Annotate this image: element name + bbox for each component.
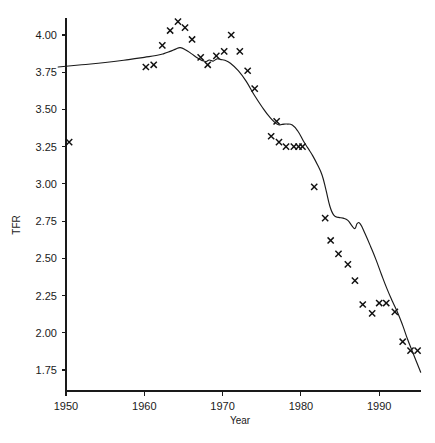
data-point-marker <box>360 301 366 307</box>
data-point-marker <box>189 36 195 42</box>
x-tick-label: 1990 <box>367 400 391 412</box>
trend-line <box>58 48 421 373</box>
data-point-marker <box>376 300 382 306</box>
x-axis-title: Year <box>230 415 251 426</box>
data-point-marker <box>213 53 219 59</box>
data-point-marker <box>205 62 211 68</box>
y-tick-label: 3.50 <box>36 103 57 115</box>
data-point-marker <box>322 215 328 221</box>
data-point-marker <box>414 348 420 354</box>
y-tick-label: 3.75 <box>36 66 57 78</box>
data-point-marker <box>245 68 251 74</box>
y-tick-label: 1.75 <box>36 364 57 376</box>
x-tick-label: 1950 <box>54 400 78 412</box>
data-point-marker <box>182 24 188 30</box>
data-point-marker <box>311 184 317 190</box>
data-point-marker <box>167 27 173 33</box>
data-point-marker <box>345 261 351 267</box>
data-point-marker <box>151 62 157 68</box>
y-tick-label: 3.25 <box>36 141 57 153</box>
chart-series <box>58 19 421 373</box>
data-point-marker <box>175 19 181 25</box>
x-axis: 19501960197019801990 <box>54 391 421 412</box>
data-point-marker <box>159 42 165 48</box>
data-point-marker <box>328 237 334 243</box>
data-point-marker <box>237 48 243 54</box>
chart-canvas: 1.752.002.252.502.753.003.253.503.754.00… <box>0 0 435 443</box>
y-tick-label: 2.75 <box>36 215 57 227</box>
data-point-marker <box>299 144 305 150</box>
y-tick-label: 3.00 <box>36 178 57 190</box>
data-point-marker <box>276 139 282 145</box>
tfr-scatter-chart: 1.752.002.252.502.753.003.253.503.754.00… <box>0 0 435 443</box>
y-tick-label: 2.50 <box>36 252 57 264</box>
data-point-marker <box>283 144 289 150</box>
data-point-marker <box>66 139 72 145</box>
data-point-marker <box>221 48 227 54</box>
data-point-marker <box>252 86 258 92</box>
data-point-marker <box>400 339 406 345</box>
x-tick-label: 1970 <box>210 400 234 412</box>
y-tick-label: 2.00 <box>36 327 57 339</box>
data-point-marker <box>228 32 234 38</box>
data-point-marker <box>369 310 375 316</box>
x-tick-label: 1960 <box>132 400 156 412</box>
y-tick-label: 4.00 <box>36 29 57 41</box>
x-tick-label: 1980 <box>289 400 313 412</box>
y-axis: 1.752.002.252.502.753.003.253.503.754.00 <box>36 18 66 391</box>
data-point-marker <box>335 251 341 257</box>
data-point-marker <box>383 300 389 306</box>
y-tick-label: 2.25 <box>36 290 57 302</box>
data-point-marker <box>268 133 274 139</box>
data-point-marker <box>352 278 358 284</box>
data-point-marker <box>143 64 149 70</box>
y-axis-title: TFR <box>11 215 22 234</box>
